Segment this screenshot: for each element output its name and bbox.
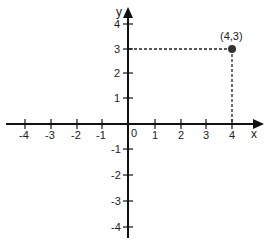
x-axis-label: x [251,127,257,141]
x-tick-label: -3 [45,129,55,141]
y-axis-arrow-icon [123,7,133,18]
x-tick-label: -1 [96,129,106,141]
x-tick-label: 3 [203,129,209,141]
y-tick-label: 2 [114,67,120,79]
point-label: (4,3) [220,30,243,42]
y-tick-label: -3 [111,195,121,207]
point-marker [228,45,236,53]
x-tick-label: -2 [71,129,81,141]
y-tick-label: 1 [114,92,120,104]
y-axis-label: y [116,5,122,19]
y-tick-label: 3 [114,43,120,55]
x-tick-label: 1 [152,129,158,141]
coordinate-plane: (4,3) x y 0 -4 -3 -2 -1 1 2 3 4 4 3 2 1 … [0,0,267,246]
x-tick-label: 2 [178,129,184,141]
x-tick-label: -4 [19,129,29,141]
x-tick-label: 4 [229,129,235,141]
origin-label: 0 [131,127,137,139]
y-tick-label: -4 [111,221,121,233]
y-tick-label: -2 [111,169,121,181]
y-tick-label: 4 [114,18,120,30]
y-tick-label: -1 [111,143,121,155]
